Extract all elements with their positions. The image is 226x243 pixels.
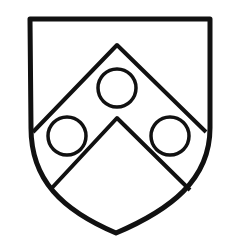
annulet-left xyxy=(48,117,86,155)
shield-outline xyxy=(30,19,210,233)
annulet-top xyxy=(98,69,136,107)
heraldic-shield xyxy=(0,0,226,243)
annulet-right xyxy=(151,117,189,155)
